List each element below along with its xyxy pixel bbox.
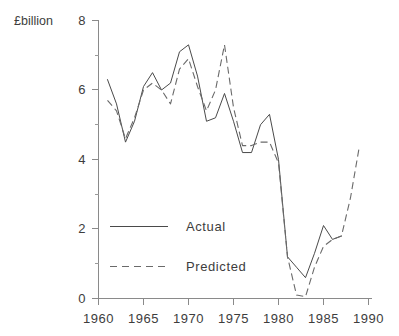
x-axis-tick-labels: 1960 1965 1970 1975 1980 1985 1990 — [83, 311, 384, 326]
x-tick-label: 1980 — [263, 311, 294, 326]
y-tick-label: 0 — [78, 291, 86, 306]
x-tick-label: 1975 — [218, 311, 249, 326]
legend-label-actual: Actual — [186, 219, 226, 234]
x-tick-label: 1970 — [173, 311, 204, 326]
x-tick-label: 1990 — [353, 311, 384, 326]
y-tick-label: 8 — [78, 13, 86, 28]
y-tick-label: 2 — [78, 221, 86, 236]
line-chart: 8 6 4 2 0 1960 1965 1970 1975 1980 1985 … — [0, 0, 399, 336]
y-tick-label: 4 — [78, 152, 86, 167]
x-axis-major-ticks — [99, 299, 369, 306]
x-tick-label: 1965 — [128, 311, 159, 326]
chart-legend: Actual Predicted — [110, 219, 246, 274]
x-tick-label: 1985 — [308, 311, 339, 326]
series-line-actual — [108, 45, 342, 278]
x-tick-label: 1960 — [83, 311, 114, 326]
y-axis-title: £billion — [14, 14, 53, 28]
y-axis-major-ticks — [92, 21, 99, 299]
chart-figure: 8 6 4 2 0 1960 1965 1970 1975 1980 1985 … — [0, 0, 399, 336]
legend-label-predicted: Predicted — [186, 259, 246, 274]
y-tick-label: 6 — [78, 82, 86, 97]
y-axis-tick-labels: 8 6 4 2 0 — [78, 13, 86, 306]
